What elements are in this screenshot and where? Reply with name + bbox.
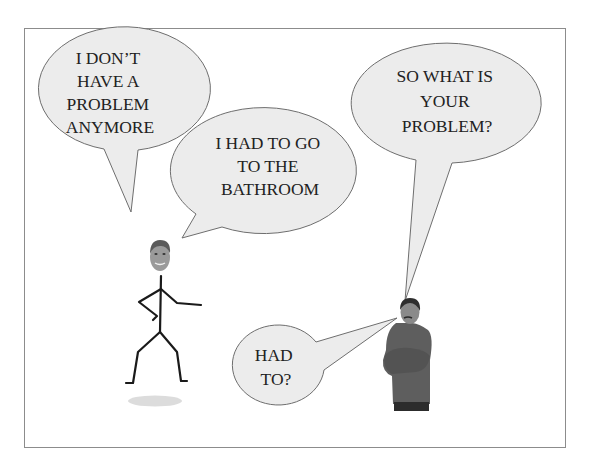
bubble-line: HAVE A bbox=[77, 71, 140, 91]
bubble-line: HAD bbox=[255, 345, 293, 365]
spine bbox=[160, 276, 161, 332]
bubble-line: PROBLEM bbox=[66, 94, 149, 114]
bubble-line: YOUR bbox=[420, 91, 470, 111]
bubble-line: I DON’T bbox=[76, 48, 141, 68]
trousers bbox=[394, 402, 429, 411]
photo-head bbox=[150, 240, 170, 271]
eye-left bbox=[154, 253, 157, 255]
floor-shadow bbox=[128, 396, 182, 407]
bubble-line: BATHROOM bbox=[221, 179, 320, 199]
eye-right bbox=[162, 253, 165, 255]
bubble-line: TO THE bbox=[237, 156, 298, 176]
bubble-line: TO? bbox=[261, 369, 292, 389]
bubble-line: ANYMORE bbox=[66, 117, 154, 137]
bubble-line: I HAD TO GO bbox=[215, 133, 320, 153]
comic-panel-scene: I DON’T HAVE A PROBLEM ANYMORE I HAD TO … bbox=[0, 0, 591, 471]
bubble-line: SO WHAT IS bbox=[397, 66, 494, 86]
bubble-line: PROBLEM? bbox=[402, 116, 493, 136]
